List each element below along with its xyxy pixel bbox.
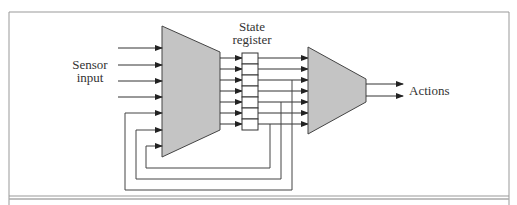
state-label-line2: register (222, 33, 282, 46)
output-logic-block (308, 47, 366, 134)
sensor-input-arrows (118, 48, 162, 97)
state-register (242, 53, 258, 130)
logic-to-register-arrows (220, 58, 242, 124)
action-output-arrows (366, 84, 403, 96)
register-to-output-arrows (258, 58, 308, 124)
sensor-input-label: Sensor input (60, 58, 120, 84)
sensor-label-line2: input (60, 71, 120, 84)
actions-label: Actions (409, 84, 449, 97)
input-logic-block (162, 26, 220, 157)
state-register-label: State register (222, 20, 282, 46)
